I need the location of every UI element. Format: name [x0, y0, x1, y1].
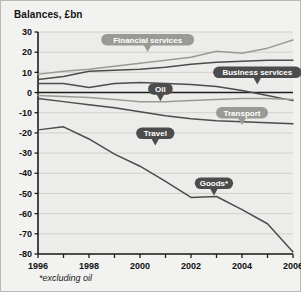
y-axis-tick-label: -20: [19, 128, 32, 138]
chart-footnote: *excluding oil: [39, 273, 92, 283]
y-axis-tick-label: 0: [27, 88, 32, 98]
callout-label: Goods*: [200, 179, 229, 188]
y-axis-tick-label: -60: [19, 209, 32, 219]
y-axis-tick-label: -50: [19, 189, 32, 199]
callout-label: Travel: [144, 129, 167, 138]
x-axis-tick-label: 2004: [232, 261, 252, 271]
x-axis-tick-label: 2002: [181, 261, 201, 271]
callout-label: Business services: [222, 68, 292, 77]
line-chart-svg: 3020100-10-20-30-40-50-60-70-80199619982…: [1, 1, 301, 292]
y-axis-tick-label: -80: [19, 249, 32, 259]
y-axis-tick-label: 20: [22, 47, 32, 57]
callout-label: Oil: [155, 85, 166, 94]
y-axis-tick-label: 30: [22, 27, 32, 37]
y-axis-tick-label: -70: [19, 229, 32, 239]
y-axis-tick-label: -10: [19, 108, 32, 118]
x-axis-tick-label: 1998: [79, 261, 99, 271]
plot-area: 3020100-10-20-30-40-50-60-70-80199619982…: [1, 1, 301, 292]
callout-label: Transport: [224, 109, 261, 118]
callout-label: Financial services: [113, 36, 182, 45]
plot-background: [38, 32, 293, 254]
x-axis: 199619982000200220042006: [28, 254, 301, 271]
y-axis-tick-label: -40: [19, 168, 32, 178]
y-axis: 3020100-10-20-30-40-50-60-70-80: [19, 27, 38, 259]
y-axis-tick-label: 10: [22, 68, 32, 78]
x-axis-tick-label: 1996: [28, 261, 48, 271]
y-axis-tick-label: -30: [19, 148, 32, 158]
x-axis-tick-label: 2006: [283, 261, 301, 271]
x-axis-tick-label: 2000: [130, 261, 150, 271]
chart-figure: Balances, £bn 3020100-10-20-30-40-50-60-…: [0, 0, 301, 292]
